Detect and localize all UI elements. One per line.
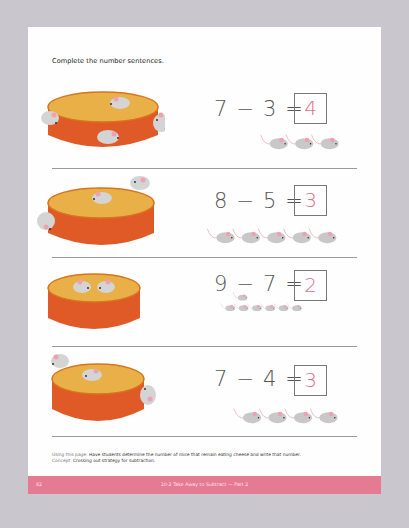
problem-row-4: 7−4= 3 <box>28 347 381 432</box>
mouse-icon <box>286 135 313 150</box>
divider <box>52 436 357 437</box>
cheese-wheel-icon <box>46 349 161 429</box>
notes-label: Using this page: <box>52 452 88 457</box>
problem-row-1: 7−3= 4 <box>28 77 381 162</box>
mice-row <box>256 131 356 151</box>
minus-sign: − <box>236 97 255 121</box>
worksheet-page: Complete the number sentences. 7−3= 4 <box>28 27 381 476</box>
problem-row-2: 8−5= 3 <box>28 169 381 254</box>
subtrahend: 5 <box>263 189 277 213</box>
teacher-notes: Using this page: Have students determine… <box>52 452 301 464</box>
minuend: 7 <box>214 97 228 121</box>
answer-box[interactable]: 4 <box>294 93 327 124</box>
concept-text: Crossing out strategy for subtraction. <box>73 458 155 463</box>
answer-box[interactable]: 3 <box>294 365 327 396</box>
problem-row-3: 9−7= 2 <box>28 258 381 343</box>
minuend: 8 <box>214 189 228 213</box>
minuend: 7 <box>214 367 228 391</box>
subtrahend: 3 <box>263 97 277 121</box>
answer-box[interactable]: 3 <box>294 185 327 216</box>
instructions: Complete the number sentences. <box>52 57 164 65</box>
mice-row <box>228 405 358 425</box>
subtrahend: 4 <box>263 367 277 391</box>
minus-sign: − <box>236 189 255 213</box>
notes-text: Have students determine the number of mi… <box>89 452 301 457</box>
mouse-icon <box>311 135 338 150</box>
cheese-wheel-icon <box>44 266 144 338</box>
cheese-wheel-icon <box>40 85 165 157</box>
cheese-wheel-icon <box>36 171 161 251</box>
concept-label: Concept: <box>52 458 72 463</box>
footer-bar: 82 10-2 Take Away to Subtract — Part 2 <box>28 476 381 494</box>
mouse-icon <box>261 135 288 150</box>
minus-sign: − <box>236 367 255 391</box>
mice-row <box>200 225 360 245</box>
mice-row <box>171 292 361 312</box>
footer-title: 10-2 Take Away to Subtract — Part 2 <box>28 482 381 487</box>
